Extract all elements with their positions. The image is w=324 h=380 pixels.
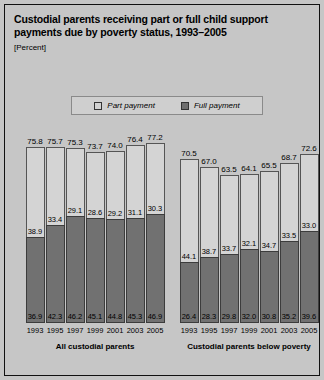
bar-column: 75.329.146.2: [65, 123, 85, 323]
stacked-bar: 67.038.728.3: [200, 123, 219, 323]
bar-column: 65.534.730.8: [259, 123, 279, 323]
bar-column: 75.733.442.3: [45, 123, 65, 323]
bar-column: 76.431.145.3: [125, 123, 145, 323]
segment-value-full-payment: 36.9: [28, 313, 43, 322]
panel-caption-all-custodial-parents: All custodial parents: [13, 342, 177, 354]
bar-total-label: 74.0: [107, 141, 123, 150]
x-axis-ticks-left: 1993199519971999200120032005: [25, 326, 165, 337]
segment-value-full-payment: 35.2: [282, 313, 297, 322]
bar-segment-part-payment: 33.0: [300, 154, 319, 231]
chart-axis: 1993199519971999200120032005 19931995199…: [5, 323, 320, 376]
chart-panel-all-custodial-parents: 75.838.936.975.733.442.375.329.146.273.7…: [25, 123, 165, 323]
bar-total-label: 75.3: [67, 138, 83, 147]
bar-segment-part-payment: 38.9: [26, 147, 45, 237]
bar-total-label: 75.7: [47, 137, 63, 146]
stacked-bar: 63.533.729.8: [220, 123, 239, 323]
chart-panel-custodial-parents-below-poverty: 70.544.126.467.038.728.363.533.729.864.1…: [179, 123, 319, 323]
segment-value-part-payment: 38.7: [202, 248, 217, 257]
stacked-bar: 72.633.039.6: [300, 123, 319, 323]
bar-total-label: 64.1: [241, 164, 257, 173]
chart-frame: Custodial parents receiving part or full…: [4, 4, 320, 376]
chart-legend: Part payment Full payment: [71, 96, 263, 115]
x-axis-ticks-right: 1993199519971999200120032005: [179, 326, 319, 337]
segment-value-full-payment: 39.6: [302, 313, 317, 322]
segment-value-full-payment: 44.8: [108, 313, 123, 322]
segment-value-full-payment: 29.8: [222, 313, 237, 322]
segment-value-full-payment: 42.3: [48, 313, 63, 322]
x-axis-tick-label: 1995: [199, 326, 219, 337]
segment-value-full-payment: 32.0: [242, 313, 257, 322]
panel-caption-custodial-parents-below-poverty: Custodial parents below poverty: [171, 342, 320, 354]
segment-value-part-payment: 44.1: [182, 253, 197, 262]
stacked-bar: 68.733.535.2: [280, 123, 299, 323]
stacked-bar: 64.132.132.0: [240, 123, 259, 323]
legend-label-full-payment: Full payment: [194, 101, 240, 110]
legend-item-full-payment: Full payment: [181, 101, 240, 110]
bar-segment-part-payment: 32.1: [240, 174, 259, 249]
x-axis-tick-label: 2003: [279, 326, 299, 337]
bar-total-label: 63.5: [221, 165, 237, 174]
stacked-bar: 75.329.146.2: [66, 123, 85, 323]
bar-segment-part-payment: 38.7: [200, 167, 219, 257]
chart-panels: 75.838.936.975.733.442.375.329.146.273.7…: [5, 123, 320, 323]
bar-total-label: 68.7: [281, 153, 297, 162]
bar-segment-full-payment: 44.8: [106, 219, 125, 323]
bar-segment-part-payment: 31.1: [126, 145, 145, 217]
plot-area-left: 75.838.936.975.733.442.375.329.146.273.7…: [25, 123, 165, 323]
bar-total-label: 65.5: [261, 161, 277, 170]
bar-column: 70.544.126.4: [179, 123, 199, 323]
bar-total-label: 73.7: [87, 142, 103, 151]
bar-segment-part-payment: 30.3: [146, 143, 165, 213]
stacked-bar: 73.728.645.1: [86, 123, 105, 323]
segment-value-part-payment: 38.9: [28, 228, 43, 237]
x-axis-tick-label: 2001: [259, 326, 279, 337]
stacked-bar: 77.230.346.9: [146, 123, 165, 323]
chart-figure: Custodial parents receiving part or full…: [0, 0, 324, 380]
bar-column: 73.728.645.1: [85, 123, 105, 323]
segment-value-part-payment: 28.6: [88, 209, 103, 218]
bar-column: 64.132.132.0: [239, 123, 259, 323]
x-axis-tick-label: 1997: [219, 326, 239, 337]
segment-value-part-payment: 30.3: [148, 205, 163, 214]
bar-column: 75.838.936.9: [25, 123, 45, 323]
bar-segment-full-payment: 46.9: [146, 214, 165, 323]
bar-segment-full-payment: 32.0: [240, 249, 259, 323]
legend-label-part-payment: Part payment: [107, 101, 155, 110]
legend-swatch-full-payment: [181, 102, 189, 110]
stacked-bar: 74.029.244.8: [106, 123, 125, 323]
segment-value-full-payment: 28.3: [202, 313, 217, 322]
bar-total-label: 70.5: [181, 149, 197, 158]
legend-swatch-part-payment: [94, 102, 102, 110]
segment-value-part-payment: 32.1: [242, 240, 257, 249]
segment-value-full-payment: 26.4: [182, 313, 197, 322]
bar-segment-part-payment: 44.1: [180, 159, 199, 262]
page-title: Custodial parents receiving part or full…: [14, 13, 311, 39]
bar-segment-full-payment: 35.2: [280, 241, 299, 323]
bar-segment-part-payment: 29.2: [106, 151, 125, 219]
x-axis-tick-label: 1999: [239, 326, 259, 337]
bar-segment-part-payment: 34.7: [260, 171, 279, 252]
bar-total-label: 76.4: [127, 135, 143, 144]
segment-value-part-payment: 33.0: [302, 222, 317, 231]
segment-value-part-payment: 33.4: [48, 216, 63, 225]
bar-segment-part-payment: 33.4: [46, 147, 65, 225]
x-axis-tick-label: 1993: [179, 326, 199, 337]
bar-segment-full-payment: 30.8: [260, 251, 279, 323]
x-axis-tick-label: 1995: [45, 326, 65, 337]
x-axis-tick-label: 1997: [65, 326, 85, 337]
x-axis-tick-label: 2001: [105, 326, 125, 337]
stacked-bar: 75.838.936.9: [26, 123, 45, 323]
stacked-bar: 70.544.126.4: [180, 123, 199, 323]
bar-column: 68.733.535.2: [279, 123, 299, 323]
bar-segment-full-payment: 42.3: [46, 225, 65, 323]
x-axis-tick-label: 2003: [125, 326, 145, 337]
bar-segment-full-payment: 46.2: [66, 216, 85, 323]
bar-segment-part-payment: 33.7: [220, 175, 239, 253]
segment-value-full-payment: 46.9: [148, 313, 163, 322]
bar-segment-part-payment: 28.6: [86, 152, 105, 219]
stacked-bar: 76.431.145.3: [126, 123, 145, 323]
stacked-bar: 75.733.442.3: [46, 123, 65, 323]
bar-column: 63.533.729.8: [219, 123, 239, 323]
legend-item-part-payment: Part payment: [94, 101, 155, 110]
bar-segment-full-payment: 26.4: [180, 262, 199, 323]
